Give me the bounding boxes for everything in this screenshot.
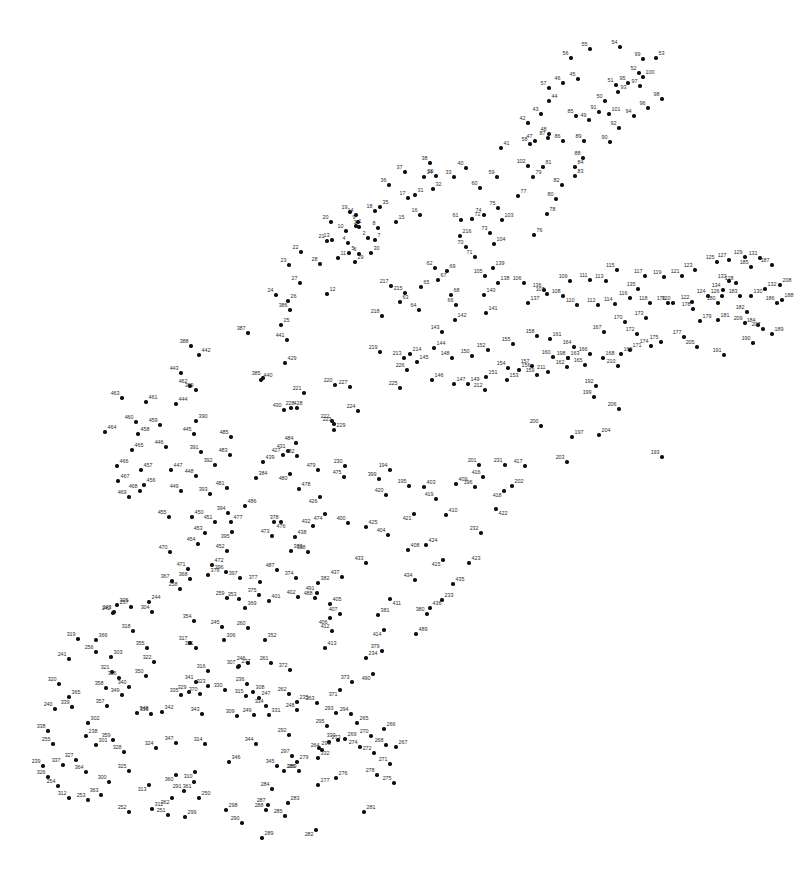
dot-mark-icon xyxy=(451,582,454,585)
dot-number-label: 18 xyxy=(367,204,373,209)
dot-mark-icon xyxy=(267,713,270,716)
dot-mark-icon xyxy=(330,238,333,241)
dot-mark-icon xyxy=(74,758,77,761)
dot-number-label: 369 xyxy=(248,601,257,606)
dot-mark-icon xyxy=(200,712,203,715)
dot-number-label: 230 xyxy=(334,459,343,464)
dot-mark-icon xyxy=(516,194,519,197)
dot-number-label: 181 xyxy=(721,313,730,318)
dot-mark-icon xyxy=(617,126,620,129)
dot-number-label: 440 xyxy=(264,373,273,378)
dot-number-label: 183 xyxy=(729,289,738,294)
dot-number-label: 41 xyxy=(504,141,510,146)
dot-mark-icon xyxy=(574,114,577,117)
dot-number-label: 38 xyxy=(422,156,428,161)
dot-mark-icon xyxy=(403,170,406,173)
dot-mark-icon xyxy=(373,209,376,212)
dot-mark-icon xyxy=(224,570,227,573)
dot-number-label: 87 xyxy=(540,131,546,136)
dot-mark-icon xyxy=(220,625,223,628)
dot-mark-icon xyxy=(533,139,536,142)
dot-mark-icon xyxy=(575,303,578,306)
dot-mark-icon xyxy=(206,573,209,576)
dot-mark-icon xyxy=(434,174,437,177)
dot-number-label: 207 xyxy=(752,322,761,327)
dot-number-label: 478 xyxy=(302,482,311,487)
dot-mark-icon xyxy=(236,665,239,668)
dot-number-label: 284 xyxy=(261,782,270,787)
dot-mark-icon xyxy=(715,260,718,263)
dot-mark-icon xyxy=(628,296,631,299)
dot-number-label: 450 xyxy=(195,510,204,515)
dot-mark-icon xyxy=(222,638,225,641)
dot-number-label: 43 xyxy=(533,107,539,112)
dot-number-label: 439 xyxy=(266,455,275,460)
dot-number-label: 234 xyxy=(369,651,378,656)
dot-number-label: 351 xyxy=(185,641,194,646)
dot-mark-icon xyxy=(112,610,115,613)
dot-number-label: 50 xyxy=(597,94,603,99)
dot-number-label: 22 xyxy=(293,245,299,250)
dot-number-label: 446 xyxy=(155,440,164,445)
dot-number-label: 224 xyxy=(347,404,356,409)
dot-mark-icon xyxy=(264,808,267,811)
dot-mark-icon xyxy=(470,354,473,357)
dot-mark-icon xyxy=(168,550,171,553)
dot-mark-icon xyxy=(394,745,397,748)
dot-number-label: 481 xyxy=(216,481,225,486)
dot-mark-icon xyxy=(94,743,97,746)
dot-number-label: 473 xyxy=(261,529,270,534)
dot-mark-icon xyxy=(238,576,241,579)
dot-mark-icon xyxy=(364,561,367,564)
dot-number-label: 168 xyxy=(606,351,615,356)
dot-mark-icon xyxy=(194,474,197,477)
dot-mark-icon xyxy=(325,292,328,295)
dot-number-label: 283 xyxy=(291,796,300,801)
dot-mark-icon xyxy=(466,382,469,385)
dot-mark-icon xyxy=(613,302,616,305)
dot-number-label: 323 xyxy=(197,679,206,684)
dot-mark-icon xyxy=(243,504,246,507)
dot-mark-icon xyxy=(626,81,629,84)
dot-number-label: 159 xyxy=(526,368,535,373)
dot-mark-icon xyxy=(496,206,499,209)
dot-number-label: 245 xyxy=(211,620,220,625)
dot-mark-icon xyxy=(545,212,548,215)
dot-mark-icon xyxy=(139,468,142,471)
dot-mark-icon xyxy=(763,287,766,290)
dot-mark-icon xyxy=(473,255,476,258)
dot-number-label: 188 xyxy=(785,293,794,298)
dot-mark-icon xyxy=(743,321,746,324)
dot-mark-icon xyxy=(722,353,725,356)
dot-number-label: 81 xyxy=(546,160,552,165)
dot-mark-icon xyxy=(147,783,150,786)
dot-mark-icon xyxy=(690,300,693,303)
dot-number-label: 117 xyxy=(634,269,642,274)
dot-mark-icon xyxy=(107,780,110,783)
dot-number-label: 30 xyxy=(374,246,380,251)
dot-number-label: 417 xyxy=(514,459,523,464)
dot-mark-icon xyxy=(332,422,335,425)
dot-mark-icon xyxy=(150,610,153,613)
dot-number-label: 401 xyxy=(272,594,281,599)
dot-mark-icon xyxy=(254,476,257,479)
dot-number-label: 8 xyxy=(373,221,376,226)
dot-mark-icon xyxy=(561,81,564,84)
dot-number-label: 349 xyxy=(111,688,120,693)
dot-number-label: 243 xyxy=(103,605,112,610)
dot-mark-icon xyxy=(197,353,200,356)
dot-mark-icon xyxy=(581,156,584,159)
dot-mark-icon xyxy=(597,110,600,113)
dot-number-label: 456 xyxy=(147,478,156,483)
dot-number-label: 341 xyxy=(185,675,194,680)
dot-mark-icon xyxy=(548,337,551,340)
dot-mark-icon xyxy=(419,285,422,288)
dot-mark-icon xyxy=(403,291,406,294)
dot-number-label: 490 xyxy=(362,676,371,681)
dot-mark-icon xyxy=(194,388,197,391)
dot-mark-icon xyxy=(693,268,696,271)
dot-mark-icon xyxy=(573,174,576,177)
dot-number-label: 46 xyxy=(555,76,561,81)
dot-number-label: 212 xyxy=(474,383,483,388)
dot-number-label: 359 xyxy=(102,733,111,738)
